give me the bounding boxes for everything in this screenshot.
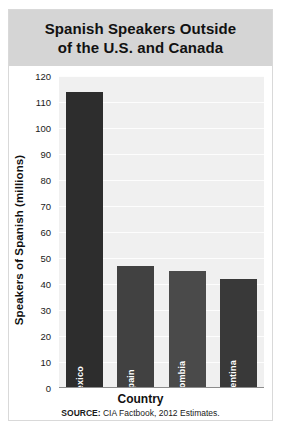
y-axis-tick-label: 40 (40, 279, 51, 290)
y-axis-tick-label: 90 (40, 149, 51, 160)
y-axis-tick-label: 60 (40, 227, 51, 238)
bar-label: Argentina (228, 360, 238, 388)
y-axis-title-label: Speakers of Spanish (millions) (13, 155, 25, 325)
source-note: SOURCE: CIA Factbook, 2012 Estimates. (9, 408, 272, 418)
bar-label: Colombia (177, 361, 187, 388)
y-axis-tick-label: 100 (35, 123, 51, 134)
x-axis-title: Country (9, 392, 272, 406)
plot-area: MexicoSpainColombiaArgentina (59, 76, 264, 388)
y-axis-title: Speakers of Spanish (millions) (10, 90, 28, 390)
plot-wrapper: 0102030405060708090100110120 MexicoSpain… (29, 76, 264, 388)
y-axis-tick-label: 30 (40, 305, 51, 316)
chart-card: Spanish Speakers Outside of the U.S. and… (8, 9, 273, 421)
y-axis-tick-label: 50 (40, 253, 51, 264)
y-axis-tick-label: 110 (36, 97, 51, 108)
source-prefix: SOURCE: (61, 408, 100, 418)
bar-colombia: Colombia (169, 271, 206, 388)
bar-spain: Spain (117, 266, 154, 388)
y-axis-tick-label: 70 (40, 201, 51, 212)
chart-title-band: Spanish Speakers Outside of the U.S. and… (9, 10, 272, 66)
y-axis-ticks: 0102030405060708090100110120 (29, 76, 55, 388)
bar-label: Spain (126, 369, 136, 388)
chart-title: Spanish Speakers Outside of the U.S. and… (37, 19, 245, 57)
bar-mexico: Mexico (66, 92, 103, 388)
bar-label: Mexico (75, 366, 85, 388)
y-axis-tick-label: 120 (35, 71, 51, 82)
x-axis-line (59, 387, 264, 388)
bar-series: MexicoSpainColombiaArgentina (59, 76, 264, 388)
y-axis-tick-label: 10 (40, 357, 51, 368)
y-axis-tick-label: 80 (40, 175, 51, 186)
bar-argentina: Argentina (220, 279, 257, 388)
source-text: CIA Factbook, 2012 Estimates. (103, 408, 220, 418)
y-axis-tick-label: 20 (40, 331, 51, 342)
